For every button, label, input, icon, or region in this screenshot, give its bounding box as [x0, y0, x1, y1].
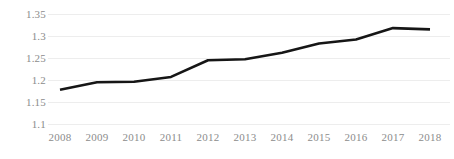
x-axis-tick-label: 2017: [373, 132, 413, 143]
x-axis-tick-label: 2013: [225, 132, 265, 143]
gridlines: [48, 14, 450, 124]
x-axis-tick-label: 2009: [77, 132, 117, 143]
x-axis-tick-label: 2010: [114, 132, 154, 143]
x-axis-tick-label: 2008: [40, 132, 80, 143]
x-axis-tick-label: 2012: [188, 132, 228, 143]
x-axis-tick-label: 2018: [410, 132, 450, 143]
x-axis-tick-label: 2011: [151, 132, 191, 143]
x-axis-tick-label: 2014: [262, 132, 302, 143]
line-chart: 1.35 1.3 1.25 1.2 1.15 1.1 2008 2009 201…: [0, 0, 454, 159]
x-axis-tick-label: 2016: [336, 132, 376, 143]
x-axis-tick-label: 2015: [299, 132, 339, 143]
